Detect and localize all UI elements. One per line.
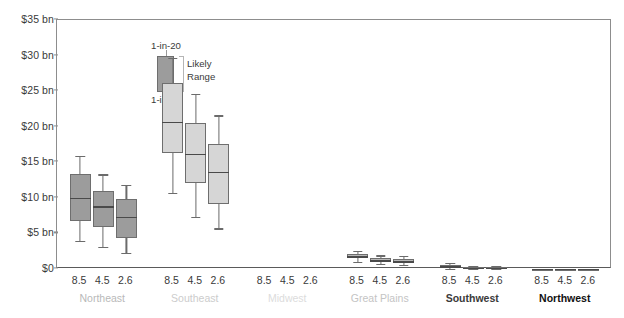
x-axis-subcategory-label: 2.6 xyxy=(303,274,318,286)
median-line xyxy=(93,206,114,207)
x-axis-subcategory-label: 4.5 xyxy=(187,274,202,286)
x-axis-group-label: Northeast xyxy=(79,292,125,304)
whisker-cap-upper xyxy=(191,94,200,95)
x-axis-subcategory-label: 4.5 xyxy=(465,274,480,286)
y-axis-tick-mark xyxy=(54,161,58,162)
x-axis-group-label: Great Plains xyxy=(351,292,409,304)
whisker-lower xyxy=(126,238,127,252)
whisker-cap-lower xyxy=(122,253,131,254)
y-axis-tick-label: $25 bn xyxy=(2,84,54,96)
x-axis-subcategory-label: 8.5 xyxy=(534,274,549,286)
median-line xyxy=(440,266,461,267)
whisker-lower xyxy=(172,153,173,193)
x-axis-subcategory-label: 8.5 xyxy=(442,274,457,286)
whisker-lower xyxy=(103,227,104,247)
boxplot[interactable] xyxy=(440,20,461,269)
y-axis-tick-label: $5 bn xyxy=(2,226,54,238)
whisker-upper xyxy=(172,58,173,84)
median-line xyxy=(555,269,576,270)
x-axis-subcategory-label: 4.5 xyxy=(372,274,387,286)
median-line xyxy=(532,269,553,270)
whisker-cap-upper xyxy=(376,255,385,256)
x-axis-subcategory-label: 8.5 xyxy=(349,274,364,286)
x-axis-subcategory-label: 2.6 xyxy=(581,274,596,286)
whisker-cap-upper xyxy=(168,58,177,59)
median-line xyxy=(393,261,414,262)
box-iqr xyxy=(208,144,229,204)
whisker-cap-lower xyxy=(99,247,108,248)
y-axis-tick-label: $20 bn xyxy=(2,120,54,132)
boxplot[interactable] xyxy=(463,20,484,269)
whisker-upper xyxy=(218,115,219,143)
median-line xyxy=(370,260,391,261)
x-axis-subcategory-label: 4.5 xyxy=(557,274,572,286)
y-axis-tick-mark xyxy=(54,267,58,268)
median-line xyxy=(70,198,91,199)
x-axis-subcategory-label: 8.5 xyxy=(164,274,179,286)
median-line xyxy=(486,268,507,269)
boxplot[interactable] xyxy=(70,20,91,269)
whisker-lower xyxy=(195,183,196,217)
x-axis-group-label: Midwest xyxy=(268,292,307,304)
boxplot[interactable] xyxy=(278,20,299,269)
boxplot[interactable] xyxy=(255,20,276,269)
median-line xyxy=(463,268,484,269)
y-axis-tick-mark xyxy=(54,54,58,55)
boxplot[interactable] xyxy=(578,20,599,269)
boxplot[interactable] xyxy=(555,20,576,269)
boxplot[interactable] xyxy=(486,20,507,269)
whisker-cap-lower xyxy=(376,264,385,265)
boxplot[interactable] xyxy=(301,20,322,269)
median-line xyxy=(162,122,183,123)
x-axis-subcategory-label: 4.5 xyxy=(280,274,295,286)
boxplot[interactable] xyxy=(347,20,368,269)
whisker-cap-lower xyxy=(353,262,362,263)
whisker-lower xyxy=(218,204,219,228)
whisker-cap-upper xyxy=(353,251,362,252)
whisker-upper xyxy=(195,94,196,123)
whisker-upper xyxy=(80,156,81,174)
whisker-cap-upper xyxy=(99,174,108,175)
median-line xyxy=(578,269,599,270)
y-axis-tick-mark xyxy=(54,90,58,91)
whisker-cap-upper xyxy=(399,256,408,257)
median-line xyxy=(208,172,229,173)
y-axis-tick-mark xyxy=(54,18,58,19)
x-axis-subcategory-label: 2.6 xyxy=(488,274,503,286)
y-axis-tick-label: $0 xyxy=(2,262,54,274)
whisker-cap-lower xyxy=(399,265,408,266)
x-axis-subcategory-label: 2.6 xyxy=(396,274,411,286)
y-axis-tick-mark xyxy=(54,196,58,197)
x-axis-group-label: Northwest xyxy=(539,292,590,304)
whisker-cap-upper xyxy=(75,156,84,157)
boxplot[interactable] xyxy=(393,20,414,269)
x-axis-subcategory-label: 2.6 xyxy=(118,274,133,286)
boxplot[interactable] xyxy=(185,20,206,269)
y-axis-tick-label: $10 bn xyxy=(2,191,54,203)
boxplot[interactable] xyxy=(208,20,229,269)
boxplot-chart: $0$5 bn$10 bn$15 bn$20 bn$25 bn$30 bn$35… xyxy=(0,0,624,318)
boxplot[interactable] xyxy=(162,20,183,269)
median-line xyxy=(347,256,368,257)
x-axis-subcategory-label: 2.6 xyxy=(211,274,226,286)
median-line xyxy=(116,217,137,218)
boxplot[interactable] xyxy=(93,20,114,269)
boxplot[interactable] xyxy=(370,20,391,269)
whisker-cap-lower xyxy=(75,241,84,242)
x-axis-group-label: Southeast xyxy=(171,292,218,304)
whisker-cap-lower xyxy=(445,269,454,270)
boxplot[interactable] xyxy=(532,20,553,269)
whisker-upper xyxy=(126,185,127,199)
y-axis-tick-label: $30 bn xyxy=(2,49,54,61)
boxplot[interactable] xyxy=(116,20,137,269)
y-axis: $0$5 bn$10 bn$15 bn$20 bn$25 bn$30 bn$35… xyxy=(0,0,54,318)
x-axis-group-label: Southwest xyxy=(446,292,499,304)
x-axis-subcategory-label: 8.5 xyxy=(257,274,272,286)
whisker-cap-lower xyxy=(214,228,223,229)
x-axis-subcategory-label: 8.5 xyxy=(72,274,87,286)
whisker-cap-upper xyxy=(445,263,454,264)
x-axis-subcategory-label: 4.5 xyxy=(95,274,110,286)
whisker-cap-upper xyxy=(214,115,223,116)
y-axis-tick-mark xyxy=(54,125,58,126)
median-line xyxy=(185,154,206,155)
